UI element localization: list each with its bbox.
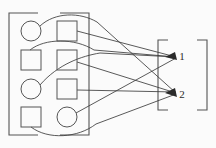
link-r1c1-to-out2: [40, 15, 176, 93]
link-r4c1-to-out2: [31, 94, 176, 136]
shape-square-r1c2[interactable]: [57, 21, 77, 41]
shape-circle-r4c2[interactable]: [57, 107, 77, 127]
shape-square-r2c1[interactable]: [21, 50, 41, 70]
link-r2c1-to-out1: [30, 41, 176, 57]
shape-square-r4c1[interactable]: [21, 107, 41, 127]
shape-circle-r1c1[interactable]: [21, 21, 41, 41]
output-label-1: 1: [179, 50, 185, 62]
link-r3c2-to-out2: [77, 90, 176, 92]
shape-mapping-diagram: 1 2: [0, 0, 216, 148]
shape-circle-r3c1[interactable]: [21, 79, 41, 99]
shape-square-r3c2[interactable]: [57, 79, 77, 99]
connection-links: [30, 15, 176, 136]
output-label-2: 2: [179, 88, 185, 100]
input-shapes: [21, 21, 77, 127]
diagram-canvas: 1 2: [0, 0, 216, 148]
output-labels: 1 2: [179, 50, 185, 100]
